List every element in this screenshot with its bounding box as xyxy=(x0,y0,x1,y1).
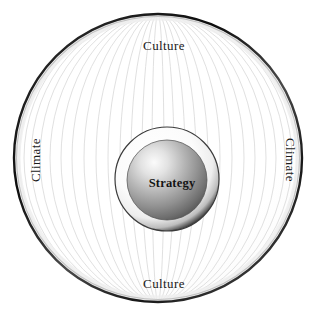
label-culture-bottom: Culture xyxy=(143,276,185,291)
label-strategy-center: Strategy xyxy=(149,176,196,190)
sphere-diagram-canvas: Culture Climate Culture Climate Strategy xyxy=(0,0,317,309)
diagram-root: Culture Climate Culture Climate Strategy xyxy=(0,0,317,309)
label-climate-left: Climate xyxy=(28,138,43,182)
label-climate-right: Climate xyxy=(283,138,298,182)
label-culture-top: Culture xyxy=(143,38,185,53)
